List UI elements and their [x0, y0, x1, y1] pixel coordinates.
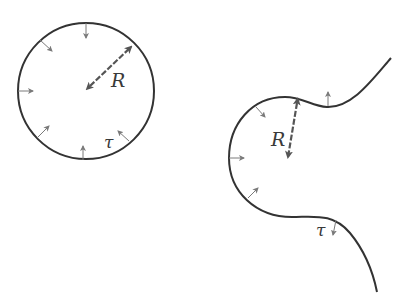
- tension-arrow-se-icon: [118, 131, 129, 141]
- circle-figure: R τ: [18, 23, 154, 160]
- curved-boundary: [229, 58, 391, 292]
- curve-tension-arrow-lower-left-icon: [248, 188, 258, 198]
- circle-tension-label: τ: [104, 132, 114, 152]
- curve-tension-arrow-upper-left-icon: [256, 107, 265, 117]
- circle-radius-label: R: [110, 69, 125, 91]
- curve-figure: R τ: [229, 58, 391, 292]
- curve-radius-label: R: [270, 128, 285, 150]
- curve-tension-arrow-lower-icon: [333, 220, 336, 235]
- tension-arrow-nw-icon: [40, 40, 52, 51]
- circle-boundary: [18, 23, 154, 159]
- curve-radius-arrow-icon: [288, 103, 297, 157]
- diagram-canvas: R τ R τ: [0, 0, 401, 300]
- tension-arrow-sw-icon: [37, 126, 49, 138]
- curve-tension-label: τ: [316, 220, 326, 240]
